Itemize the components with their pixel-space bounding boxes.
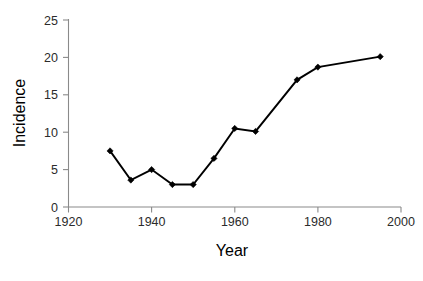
- y-tick-label-10: 10: [44, 126, 58, 140]
- x-tick-label-1940: 1940: [138, 215, 166, 229]
- line-chart: 0 5 10 15 20 25 1920 1940 1960 1980 2000…: [0, 0, 423, 281]
- x-axis-title: Year: [216, 242, 249, 259]
- y-tick-label-25: 25: [44, 14, 58, 28]
- y-tick-label-5: 5: [51, 163, 58, 177]
- chart-container: 0 5 10 15 20 25 1920 1940 1960 1980 2000…: [0, 0, 423, 281]
- y-tick-label-15: 15: [44, 88, 58, 102]
- y-tick-label-20: 20: [44, 51, 58, 65]
- y-tick-label-0: 0: [51, 201, 58, 215]
- x-tick-label-1920: 1920: [55, 215, 83, 229]
- x-tick-label-1980: 1980: [304, 215, 332, 229]
- x-tick-label-1960: 1960: [221, 215, 249, 229]
- chart-background: [0, 0, 423, 281]
- x-tick-label-2000: 2000: [387, 215, 415, 229]
- y-axis-title: Incidence: [11, 79, 28, 148]
